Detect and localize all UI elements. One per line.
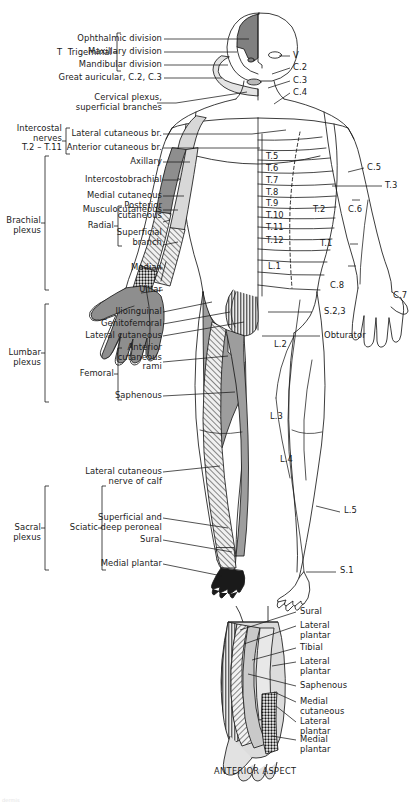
- figure-artwork: [0, 0, 415, 811]
- label-brachial-plexus-group: Brachial plexus: [0, 216, 41, 235]
- label-intercostal-nerves-group: Intercostal nerves T.2 – T.11: [4, 124, 62, 153]
- label-sacral-plexus-group: Sacral plexus: [0, 523, 41, 542]
- label-median: Median: [100, 263, 162, 273]
- dermatome-l5: L.5: [344, 506, 357, 516]
- label-ulnar: Ulnar: [100, 285, 162, 295]
- dermatome-t6: T.6: [266, 164, 278, 174]
- dermatome-l1: L.1: [268, 262, 281, 272]
- dermatome-t8: T.8: [266, 188, 278, 198]
- label-v-trigeminal: V: [293, 51, 299, 61]
- dermatome-s1: S.1: [340, 566, 354, 576]
- dermatome-t7: T.7: [266, 176, 278, 186]
- dermatome-t9: T.9: [266, 199, 278, 209]
- label-superficial-branch: Superficial branch: [98, 228, 162, 247]
- anatomical-figure: T Trigeminal Ophthalmic division Maxilla…: [0, 0, 415, 811]
- label-axillary: Axillary: [80, 157, 162, 167]
- label-medial-plantar: Medial plantar: [78, 559, 162, 569]
- label-mandibular-division: Mandibular division: [34, 60, 162, 70]
- label-maxillary-division: Maxillary division: [34, 47, 162, 57]
- label-s23: S.2,3: [324, 307, 346, 317]
- label-anterior-cutaneous-br: Anterior cutaneous br.: [66, 143, 162, 153]
- label-c5: C.5: [367, 163, 381, 173]
- label-great-auricular: Great auricular, C.2, C.3: [12, 73, 162, 83]
- label-c3: C.3: [293, 76, 307, 86]
- foot-label-lateral-plantar-1: Lateral plantar: [300, 621, 331, 640]
- foot-label-sural: Sural: [300, 607, 322, 617]
- foot-label-medial-cutaneous: Medial cutaneous: [300, 697, 344, 716]
- label-t3: T.3: [385, 181, 397, 191]
- foot-label-tibial: Tibial: [300, 643, 323, 653]
- label-c7: C.7: [393, 291, 407, 301]
- label-ilioinguinal: Ilioinguinal: [82, 307, 162, 317]
- label-c6: C.6: [348, 205, 362, 215]
- foot-label-lateral-plantar-2: Lateral plantar: [300, 657, 331, 676]
- dermatome-l2: L.2: [274, 340, 287, 350]
- dermatome-t5: T.5: [266, 152, 278, 162]
- label-t2: T.2: [313, 205, 325, 215]
- label-lateral-cutaneous-lumbar: Lateral cutaneous: [70, 331, 162, 341]
- label-t1: T.1: [320, 239, 332, 249]
- label-c2: C.2: [293, 63, 307, 73]
- label-genitofemoral: Genitofemoral: [76, 319, 162, 329]
- label-intercostobrachial: Intercostobrachial: [58, 175, 162, 185]
- label-ophthalmic-division: Ophthalmic division: [34, 34, 162, 44]
- label-lateral-cutaneous-nerve-of-calf: Lateral cutaneous nerve of calf: [60, 467, 162, 486]
- label-lumbar-plexus-group: Lumbar plexus: [0, 348, 41, 367]
- label-superficial-deep-peroneal: Superficial and deep peroneal: [64, 513, 162, 532]
- label-saphenous: Saphenous: [98, 391, 162, 401]
- label-c8: C.8: [330, 281, 344, 291]
- dermatome-t12: T.12: [266, 236, 284, 246]
- watermark: dermis: [2, 797, 20, 803]
- figure-caption: ANTERIOR ASPECT: [214, 766, 297, 776]
- label-cervical-plexus: Cervical plexus, superficial branches: [42, 93, 162, 112]
- label-obturator: Obturator: [324, 331, 366, 341]
- dermatome-t11: T.11: [266, 223, 284, 233]
- label-sural: Sural: [100, 535, 162, 545]
- label-posterior-cutaneous: Posterior cutaneous: [98, 201, 162, 220]
- dermatome-l4: L.4: [280, 455, 293, 465]
- foot-label-saphenous: Saphenous: [300, 681, 347, 691]
- label-c4: C.4: [293, 88, 307, 98]
- dermatome-l3: L.3: [270, 412, 283, 422]
- label-anterior-cutaneous-rami: Anterior cutaneous rami: [98, 343, 162, 372]
- label-lateral-cutaneous-br: Lateral cutaneous br.: [70, 129, 162, 139]
- foot-label-medial-plantar: Medial plantar: [300, 735, 331, 754]
- dermatome-t10: T.10: [266, 211, 284, 221]
